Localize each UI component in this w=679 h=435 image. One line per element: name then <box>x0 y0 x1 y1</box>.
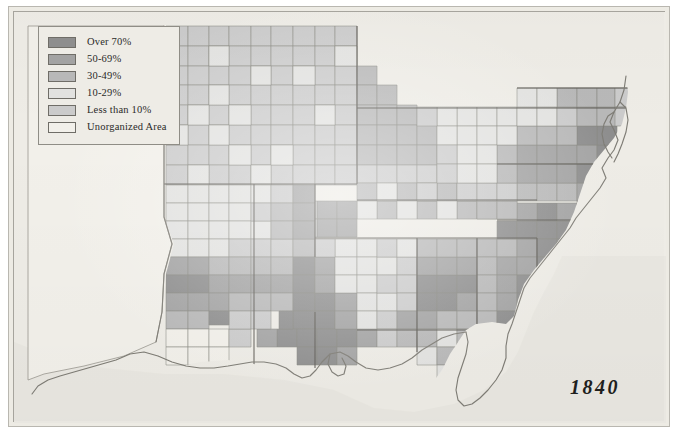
legend-swatch-unorganized-area <box>48 122 76 133</box>
legend-label-50-69: 50-69% <box>87 54 121 65</box>
legend-label-10-29: 10-29% <box>87 88 121 99</box>
legend-item-over-70: Over 70% <box>48 34 167 50</box>
map-date-caption: 1840 <box>570 376 620 399</box>
legend-swatch-30-49 <box>48 71 76 82</box>
legend-label-less-than-10: Less than 10% <box>87 105 151 116</box>
legend-swatch-50-69 <box>48 54 76 65</box>
legend-item-less-than-10: Less than 10% <box>48 102 167 118</box>
legend-item-30-49: 30-49% <box>48 68 167 84</box>
legend-label-over-70: Over 70% <box>87 37 131 48</box>
legend-item-50-69: 50-69% <box>48 51 167 67</box>
legend-swatch-10-29 <box>48 88 76 99</box>
legend-item-10-29: 10-29% <box>48 85 167 101</box>
map-legend: Over 70% 50-69% 30-49% 10-29% Less than … <box>38 26 180 145</box>
legend-swatch-over-70 <box>48 37 76 48</box>
legend-label-30-49: 30-49% <box>87 71 121 82</box>
legend-item-unorganized-area: Unorganized Area <box>48 119 167 135</box>
map-frame-inner: Over 70% 50-69% 30-49% 10-29% Less than … <box>13 11 665 422</box>
legend-label-unorganized-area: Unorganized Area <box>87 122 167 133</box>
legend-swatch-less-than-10 <box>48 105 76 116</box>
map-page: Over 70% 50-69% 30-49% 10-29% Less than … <box>0 0 679 435</box>
